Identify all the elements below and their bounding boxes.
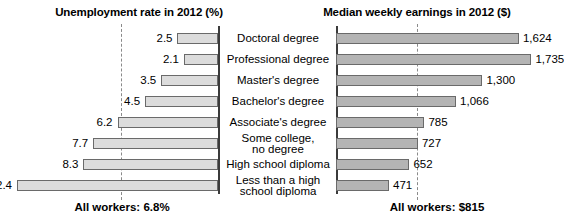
earnings-row: 471 — [334, 176, 556, 197]
earnings-bar — [336, 159, 409, 170]
earnings-row: 727 — [334, 134, 556, 155]
earnings-value: 727 — [422, 135, 441, 152]
earnings-bar — [336, 138, 418, 149]
unemployment-row: 8.3 — [0, 155, 222, 176]
earnings-bar — [336, 75, 482, 86]
unemployment-bar — [83, 159, 218, 170]
category-label: Some college, no degree — [222, 133, 334, 155]
category-label-column: Doctoral degreeProfessional degreeMaster… — [222, 24, 334, 196]
left-chart-title: Unemployment rate in 2012 (%) — [0, 6, 278, 18]
unemployment-row: 2.5 — [0, 29, 222, 50]
unemployment-value: 7.7 — [72, 135, 88, 152]
category-label: Master's degree — [222, 75, 334, 86]
earnings-row: 1,735 — [334, 50, 556, 71]
earnings-panel: 1,6241,7351,3001,066785727652471 — [334, 24, 556, 196]
earnings-row: 785 — [334, 113, 556, 134]
earnings-value: 1,300 — [486, 72, 515, 89]
unemployment-row: 7.7 — [0, 134, 222, 155]
unemployment-value: 4.5 — [124, 93, 140, 110]
unemployment-bar — [118, 117, 219, 128]
earnings-bar — [336, 96, 456, 107]
earnings-value: 471 — [393, 177, 412, 194]
unemployment-bar — [161, 75, 218, 86]
unemployment-bar — [93, 138, 218, 149]
earnings-value: 1,624 — [523, 30, 552, 47]
category-label: Less than a high school diploma — [222, 175, 334, 197]
category-label: High school diploma — [222, 159, 334, 170]
earnings-bar — [336, 54, 531, 65]
right-all-workers-label: All workers: $815 — [337, 201, 537, 213]
category-label: Professional degree — [222, 54, 334, 65]
earnings-value: 785 — [428, 114, 447, 131]
earnings-row: 1,066 — [334, 92, 556, 113]
unemployment-value: 2.1 — [163, 51, 179, 68]
unemployment-bar — [184, 54, 218, 65]
unemployment-bar — [177, 33, 218, 44]
unemployment-bar — [17, 180, 218, 191]
unemployment-value: 2.5 — [156, 30, 172, 47]
category-label: Associate's degree — [222, 117, 334, 128]
category-label: Bachelor's degree — [222, 96, 334, 107]
unemployment-row: 2.1 — [0, 50, 222, 71]
earnings-value: 1,735 — [535, 51, 564, 68]
unemployment-row: 3.5 — [0, 71, 222, 92]
unemployment-panel: 2.52.13.54.56.27.78.312.4 — [0, 24, 222, 196]
earnings-value: 1,066 — [460, 93, 489, 110]
right-chart-title: Median weekly earnings in 2012 ($) — [278, 6, 556, 18]
unemployment-row: 4.5 — [0, 92, 222, 113]
left-all-workers-label: All workers: 6.8% — [22, 201, 222, 213]
unemployment-value: 6.2 — [97, 114, 113, 131]
unemployment-row: 6.2 — [0, 113, 222, 134]
earnings-bar — [336, 117, 424, 128]
category-label: Doctoral degree — [222, 33, 334, 44]
earnings-row: 1,624 — [334, 29, 556, 50]
unemployment-value: 12.4 — [0, 177, 12, 194]
unemployment-bar — [145, 96, 218, 107]
earnings-bar — [336, 33, 519, 44]
earnings-row: 1,300 — [334, 71, 556, 92]
unemployment-row: 12.4 — [0, 176, 222, 197]
unemployment-value: 3.5 — [140, 72, 156, 89]
earnings-row: 652 — [334, 155, 556, 176]
earnings-value: 652 — [413, 156, 432, 173]
unemployment-value: 8.3 — [62, 156, 78, 173]
earnings-bar — [336, 180, 389, 191]
